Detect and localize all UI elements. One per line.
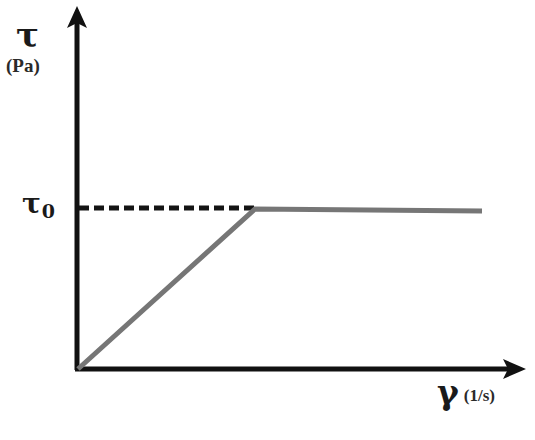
yield-stress-symbol: τ (22, 187, 41, 220)
y-axis-symbol: τ (16, 18, 68, 52)
yield-stress-subscript: 0 (42, 200, 55, 222)
y-axis-label: τ (Pa) (6, 18, 68, 75)
yield-stress-tick-label: τ0 (22, 190, 54, 218)
flow-curve (78, 209, 482, 369)
rheology-figure: τ (Pa) τ0 γ(1/s) (0, 0, 535, 440)
x-axis-units: (1/s) (464, 386, 495, 405)
x-axis-label: γ(1/s) (437, 376, 495, 409)
y-axis-units: (Pa) (6, 56, 68, 75)
x-axis-symbol: γ (437, 373, 459, 412)
